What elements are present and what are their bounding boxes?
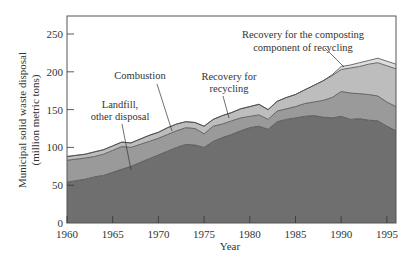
- y-tick-label: 0: [58, 217, 64, 229]
- svg-text:component of recycling: component of recycling: [253, 42, 353, 53]
- y-axis-title: Municipal solid waste disposal (million …: [16, 52, 42, 188]
- svg-text:Recovery for: Recovery for: [201, 71, 257, 82]
- annotation-composting: Recovery for the composting component of…: [242, 29, 365, 67]
- svg-text:recycling: recycling: [209, 83, 249, 94]
- x-tick-label: 1975: [193, 228, 216, 240]
- x-tick-label: 1980: [239, 228, 262, 240]
- svg-text:Landfill,: Landfill,: [102, 99, 138, 110]
- x-tick-label: 1990: [330, 228, 353, 240]
- x-tick-label: 1960: [56, 228, 79, 240]
- y-tick-label: 100: [47, 141, 64, 153]
- y-tick-label: 50: [52, 179, 64, 191]
- svg-text:other disposal: other disposal: [91, 111, 150, 122]
- x-tick-label: 1995: [376, 228, 399, 240]
- stacked-area-chart: 19601965197019751980198519901995 0501001…: [0, 0, 418, 260]
- x-tick-label: 1965: [102, 228, 125, 240]
- y-tick-label: 150: [47, 104, 64, 116]
- x-tick-label: 1970: [147, 228, 170, 240]
- svg-text:Combustion: Combustion: [114, 70, 166, 81]
- y-axis-title-line2: (million metric tons): [29, 74, 42, 165]
- x-axis-title: Year: [220, 240, 241, 252]
- svg-text:Recovery for the composting: Recovery for the composting: [242, 29, 365, 40]
- x-tick-label: 1985: [285, 228, 308, 240]
- y-tick-label: 200: [47, 66, 64, 78]
- y-axis-title-line1: Municipal solid waste disposal: [16, 52, 28, 188]
- y-tick-label: 250: [47, 28, 64, 40]
